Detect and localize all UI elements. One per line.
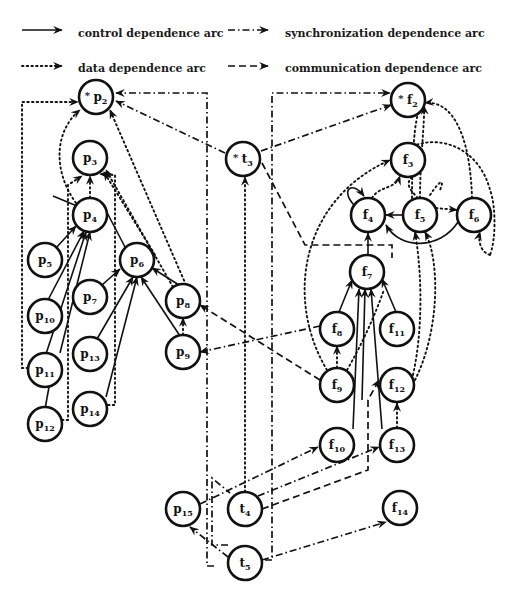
node-f14: f14: [383, 491, 417, 525]
node-p13: p13: [73, 337, 107, 371]
legend: control dependence arc synchronization d…: [22, 27, 485, 75]
node-p3: p3: [73, 141, 107, 175]
node-p7: p7: [73, 280, 107, 314]
node-f7: f7: [350, 255, 384, 289]
data-arc: [372, 176, 400, 198]
control-arc: [45, 387, 49, 409]
legend-communication: communication dependence arc: [228, 62, 482, 75]
node-p10: p10: [28, 299, 62, 333]
node-f3: f3: [391, 143, 425, 177]
node-p4: p4: [73, 198, 107, 232]
control-arc: [56, 226, 76, 248]
control-arc: [362, 289, 365, 400]
control-arc: [152, 268, 179, 285]
data-arc: [104, 172, 155, 255]
data-arc: [413, 232, 420, 375]
sync-arc: [190, 527, 228, 557]
node-t3: * t3: [226, 142, 260, 176]
legend-control-label: control dependence arc: [78, 27, 224, 40]
sync-arc: [261, 105, 391, 151]
sync-arc: [116, 101, 225, 153]
node-f13: f13: [380, 428, 414, 462]
node-f12: f12: [380, 368, 414, 402]
node-f10: f10: [320, 428, 354, 462]
control-arc: [102, 269, 120, 285]
data-arc: [425, 103, 472, 198]
node-f5: f5: [403, 198, 437, 232]
legend-data: data dependence arc: [22, 62, 206, 75]
legend-data-label: data dependence arc: [78, 62, 206, 75]
node-p15: p15: [166, 492, 200, 526]
control-arc: [106, 277, 137, 397]
legend-control: control dependence arc: [22, 27, 224, 40]
control-arc: [339, 280, 352, 312]
node-p6: p6: [120, 243, 154, 277]
node-p14: p14: [73, 392, 107, 426]
data-arc: [415, 232, 435, 380]
node-p2: * p2: [79, 80, 113, 114]
data-arc: [430, 182, 442, 195]
sync-arc: [200, 326, 320, 352]
data-arc: [479, 232, 490, 255]
legend-comm-label: communication dependence arc: [285, 62, 482, 75]
node-p12: p12: [28, 407, 62, 441]
sync-arc: [116, 93, 214, 566]
node-f2: * f2: [391, 83, 425, 117]
node-p11: p11: [28, 353, 62, 387]
node-f4: f4: [351, 198, 385, 232]
control-arc: [382, 279, 396, 312]
control-arc: [353, 289, 359, 429]
dependence-graph: control dependence arc synchronization d…: [0, 0, 508, 593]
node-t4: t4: [228, 492, 262, 526]
sync-arc: [262, 522, 386, 560]
data-arc: [436, 208, 457, 210]
legend-sync-label: synchronization dependence arc: [285, 27, 485, 40]
node-t5: t5: [228, 546, 262, 580]
node-p9: p9: [166, 335, 200, 369]
node-f11: f11: [380, 312, 414, 346]
node-f6: f6: [457, 198, 491, 232]
comm-arc: [200, 305, 320, 380]
node-p5: p5: [28, 243, 62, 277]
node-p8: p8: [166, 284, 200, 318]
node-f8: f8: [320, 312, 354, 346]
nodes: * p2p3p4p5p6p7p8p9p10p11p12p13p14p15* t3…: [28, 80, 491, 580]
node-f9: f9: [320, 368, 354, 402]
legend-synchronization: synchronization dependence arc: [228, 27, 485, 40]
